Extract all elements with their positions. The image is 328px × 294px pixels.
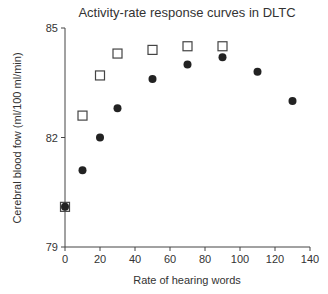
x-tick-label: 40 <box>129 253 141 265</box>
filled-circle-marker <box>114 104 122 112</box>
x-axis-label: Rate of hearing words <box>133 274 241 286</box>
open-square-marker <box>96 71 105 80</box>
y-tick-label: 82 <box>46 132 58 144</box>
scatter-chart: Activity-rate response curves in DLTC 79… <box>0 0 328 294</box>
open-square-marker <box>78 111 87 120</box>
filled-circle-marker <box>79 166 87 174</box>
x-tick-label: 20 <box>94 253 106 265</box>
x-tick-label: 140 <box>301 253 319 265</box>
open-square-marker <box>183 42 192 51</box>
filled-circle-marker <box>96 134 104 142</box>
x-tick-label: 120 <box>266 253 284 265</box>
y-tick-label: 85 <box>46 22 58 34</box>
y-tick-label: 79 <box>46 241 58 253</box>
data-points <box>61 42 297 212</box>
y-axis-label: Cerebral blood fow (ml/100 ml/min) <box>11 52 23 223</box>
open-square-marker <box>218 42 227 51</box>
open-square-marker <box>113 49 122 58</box>
chart-title: Activity-rate response curves in DLTC <box>78 5 295 20</box>
filled-circle-marker <box>254 68 262 76</box>
filled-circle-marker <box>149 75 157 83</box>
x-tick-label: 100 <box>231 253 249 265</box>
filled-circle-marker <box>289 97 297 105</box>
filled-circle-marker <box>184 61 192 69</box>
filled-circle-marker <box>61 203 69 211</box>
x-tick-label: 0 <box>62 253 68 265</box>
x-tick-label: 80 <box>199 253 211 265</box>
open-square-marker <box>148 45 157 54</box>
filled-circle-marker <box>219 53 227 61</box>
x-tick-label: 60 <box>164 253 176 265</box>
axes: 798285020406080100120140 <box>46 22 319 265</box>
